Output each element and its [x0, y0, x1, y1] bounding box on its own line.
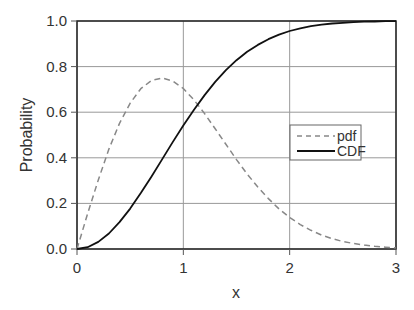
chart: 0.00.20.40.60.81.0 0123 x Probability pd… — [0, 0, 414, 310]
x-tick-label: 2 — [285, 259, 293, 276]
pdf-line — [77, 78, 396, 249]
y-tick-label: 0.4 — [46, 149, 67, 166]
legend-pdf-label: pdf — [337, 128, 357, 144]
x-tick-label: 0 — [73, 259, 81, 276]
y-tick-label: 0.0 — [46, 240, 67, 257]
y-axis-label: Probability — [18, 98, 35, 173]
legend-cdf-label: CDF — [337, 143, 366, 159]
y-tick-label: 0.6 — [46, 103, 67, 120]
x-axis-label: x — [232, 284, 240, 301]
y-tick-label: 0.2 — [46, 194, 67, 211]
y-tick-label: 0.8 — [46, 58, 67, 75]
y-tick-label: 1.0 — [46, 12, 67, 29]
legend: pdf CDF — [290, 125, 366, 160]
x-tick-label: 3 — [392, 259, 400, 276]
x-axis-ticks: 0123 — [73, 249, 400, 276]
x-tick-label: 1 — [179, 259, 187, 276]
y-axis-ticks: 0.00.20.40.60.81.0 — [46, 12, 77, 257]
